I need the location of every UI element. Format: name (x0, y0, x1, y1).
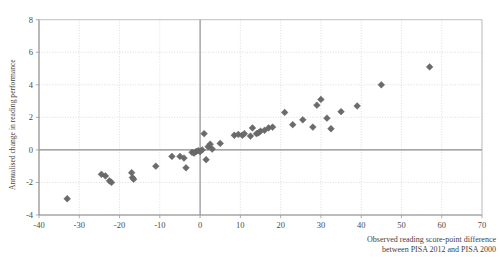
x-tick-label: 70 (478, 220, 487, 230)
y-tick-label: -4 (26, 210, 34, 220)
scatter-chart: -40-30-20-10010203040506070 -4-202468 An… (0, 0, 502, 261)
x-tick-label: 10 (236, 220, 245, 230)
x-axis-title-line2: between PISA 2012 and PISA 2000 (382, 245, 496, 254)
x-tick-label: -40 (33, 220, 44, 230)
x-tick-label: 30 (317, 220, 326, 230)
chart-canvas: -40-30-20-10010203040506070 -4-202468 An… (0, 0, 502, 261)
x-tick-label: 60 (437, 220, 446, 230)
y-axis-title: Annualised change in reading performance (8, 59, 17, 190)
y-tick-label: 0 (29, 145, 33, 155)
y-tick-label: -2 (26, 177, 33, 187)
x-tick-label: 0 (198, 220, 202, 230)
x-tick-label: -20 (114, 220, 125, 230)
x-axis-title-line1: Observed reading score-point difference (367, 235, 496, 244)
x-tick-label: 40 (357, 220, 366, 230)
x-tick-label: -10 (154, 220, 165, 230)
y-tick-label: 2 (29, 112, 33, 122)
x-tick-label: -30 (74, 220, 85, 230)
x-tick-label: 50 (397, 220, 406, 230)
y-tick-label: 8 (29, 15, 33, 25)
y-tick-label: 6 (29, 47, 33, 57)
x-tick-label: 20 (276, 220, 285, 230)
